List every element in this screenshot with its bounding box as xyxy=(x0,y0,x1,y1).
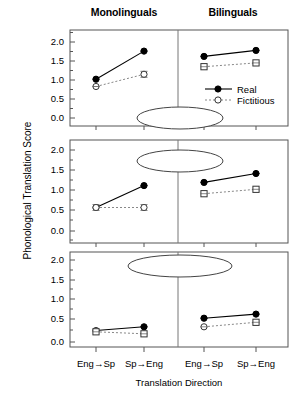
series-p3-bil-fictitious xyxy=(201,319,260,330)
chart-figure: Monolinguals Bilinguals Phonological Tra… xyxy=(0,0,299,398)
legend-marker-real xyxy=(205,86,232,92)
series-p3-bil-real xyxy=(201,311,260,321)
series-p1-bil-fictitious xyxy=(201,60,260,70)
series-p2-bil-real xyxy=(201,170,260,185)
y-ticks-panel3 xyxy=(70,260,75,342)
y-ticks-panel2 xyxy=(70,150,75,240)
y-ticks-panel1 xyxy=(70,33,75,119)
series-p2-mono-real xyxy=(93,183,148,211)
plot-canvas xyxy=(0,0,299,398)
series-p1-mono-real xyxy=(93,48,148,82)
series-p1-bil-real xyxy=(201,47,260,59)
series-p1-mono-fictitious xyxy=(93,71,148,89)
callout-ellipse-grade2 xyxy=(137,150,223,172)
series-p2-bil-fictitious xyxy=(201,186,260,197)
callout-ellipse-kindergarten xyxy=(128,255,232,277)
legend-marker-fictitious xyxy=(205,97,232,103)
callout-ellipse-grade5 xyxy=(137,107,223,129)
